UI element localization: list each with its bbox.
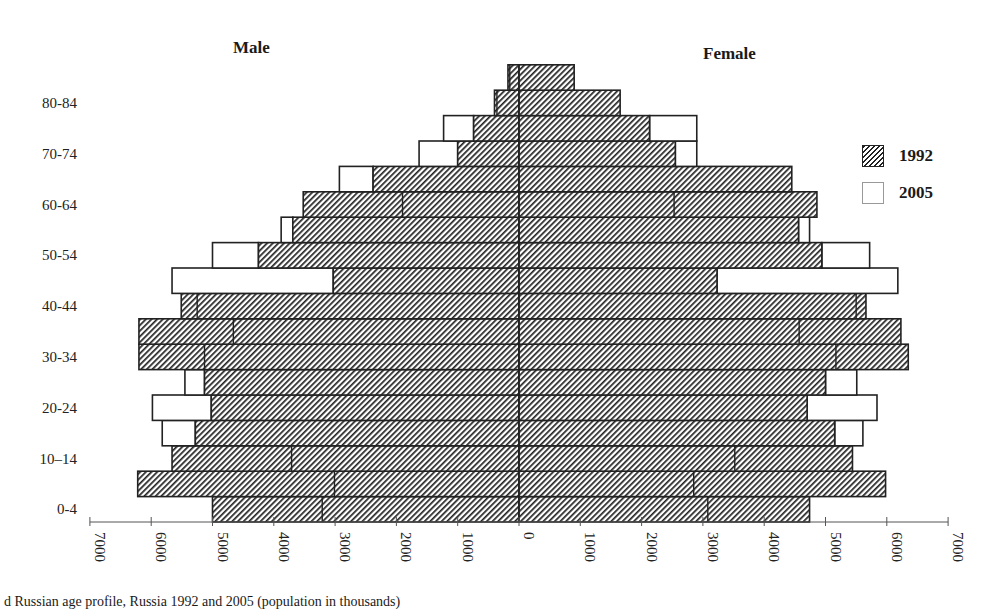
x-tick-label: 3000 — [337, 532, 353, 562]
female-1992-bar — [519, 319, 901, 344]
white-swatch-icon — [862, 182, 884, 204]
y-tick-label: 60-64 — [42, 197, 77, 213]
female-2005-bar — [650, 116, 697, 141]
y-tick-label: 70-74 — [42, 146, 77, 162]
male-2005-bar — [162, 420, 195, 445]
male-1992-bar — [458, 141, 519, 166]
bars-group — [138, 65, 909, 522]
male-1992-bar — [195, 420, 519, 445]
bar-row-15-19 — [162, 420, 863, 445]
female-1992-bar — [519, 497, 810, 522]
bar-row-85+ — [508, 65, 574, 90]
female-1992-bar — [519, 420, 835, 445]
female-1992-bar — [519, 293, 866, 318]
x-tick-label: 7000 — [950, 532, 966, 562]
legend: 1992 2005 — [862, 142, 933, 216]
female-1992-bar — [519, 370, 826, 395]
bar-row-30-34 — [139, 344, 908, 369]
male-1992-bar — [373, 166, 519, 191]
female-1992-bar — [519, 395, 807, 420]
female-1992-bar — [519, 116, 650, 141]
x-tick-label: 2000 — [644, 532, 660, 562]
male-1992-bar — [181, 293, 519, 318]
female-1992-bar — [519, 471, 886, 496]
male-2005-bar — [152, 395, 211, 420]
male-1992-bar — [333, 268, 519, 293]
x-axis: 7000600050004000300020001000010002000300… — [90, 517, 966, 562]
legend-item-2005: 2005 — [862, 179, 933, 207]
bar-row-10-14 — [172, 446, 852, 471]
x-tick-label: 1000 — [582, 532, 598, 562]
male-1992-bar — [139, 344, 519, 369]
male-1992-bar — [303, 192, 519, 217]
figure-caption: d Russian age profile, Russia 1992 and 2… — [4, 594, 400, 610]
female-1992-bar — [519, 217, 799, 242]
male-2005-bar — [444, 116, 474, 141]
male-1992-bar — [293, 217, 519, 242]
bar-row-25-29 — [185, 370, 857, 395]
male-2005-bar — [419, 141, 458, 166]
female-2005-bar — [799, 217, 810, 242]
male-1992-bar — [172, 446, 519, 471]
x-tick-label: 6000 — [153, 532, 169, 562]
y-tick-label: 80-84 — [42, 95, 77, 111]
y-tick-label: 40-44 — [42, 298, 77, 314]
female-1992-bar — [519, 65, 574, 90]
bar-row-60-64 — [303, 192, 817, 217]
female-1992-bar — [519, 192, 817, 217]
bar-row-55-59 — [281, 217, 809, 242]
male-1992-bar — [213, 497, 520, 522]
x-tick-label: 3000 — [705, 532, 721, 562]
bar-row-40-44 — [181, 293, 866, 318]
female-1992-bar — [519, 446, 852, 471]
male-1992-bar — [494, 90, 519, 115]
x-tick-label: 7000 — [92, 532, 108, 562]
male-label: Male — [233, 38, 270, 58]
female-1992-bar — [519, 141, 675, 166]
male-1992-bar — [474, 116, 519, 141]
bar-row-45-49 — [172, 268, 898, 293]
male-2005-bar — [281, 217, 293, 242]
female-2005-bar — [717, 268, 898, 293]
y-tick-label: 0-4 — [57, 501, 77, 517]
female-1992-bar — [519, 344, 908, 369]
female-2005-bar — [807, 395, 877, 420]
bar-row-75-79 — [444, 116, 697, 141]
male-2005-bar — [213, 243, 259, 268]
female-label: Female — [703, 44, 756, 64]
male-2005-bar — [339, 166, 373, 191]
female-2005-bar — [675, 141, 696, 166]
female-1992-bar — [519, 268, 717, 293]
y-tick-label: 50-54 — [42, 247, 77, 263]
male-1992-bar — [139, 319, 519, 344]
legend-label: 1992 — [899, 146, 933, 166]
x-tick-label: 4000 — [276, 532, 292, 562]
male-2005-bar — [185, 370, 205, 395]
bar-row-80-84 — [494, 90, 620, 115]
legend-label: 2005 — [899, 183, 933, 203]
male-1992-bar — [138, 471, 519, 496]
bar-row-0-4 — [213, 497, 810, 522]
bar-row-50-54 — [213, 243, 870, 268]
x-tick-label: 4000 — [766, 532, 782, 562]
female-1992-bar — [519, 90, 620, 115]
bar-row-65-69 — [339, 166, 791, 191]
bar-row-35-39 — [139, 319, 901, 344]
female-2005-bar — [835, 420, 863, 445]
x-tick-label: 1000 — [460, 532, 476, 562]
y-tick-label: 20-24 — [42, 400, 77, 416]
x-tick-label: 6000 — [889, 532, 905, 562]
bar-row-5-9 — [138, 471, 886, 496]
female-2005-bar — [826, 370, 857, 395]
female-1992-bar — [519, 243, 822, 268]
female-2005-bar — [822, 243, 870, 268]
y-tick-label: 30-34 — [42, 349, 77, 365]
legend-item-1992: 1992 — [862, 142, 933, 170]
bar-row-20-24 — [152, 395, 877, 420]
y-tick-label: 10–14 — [40, 451, 78, 467]
male-1992-bar — [258, 243, 519, 268]
male-1992-bar — [211, 395, 519, 420]
hatched-swatch-icon — [862, 145, 884, 167]
male-1992-bar — [205, 370, 519, 395]
